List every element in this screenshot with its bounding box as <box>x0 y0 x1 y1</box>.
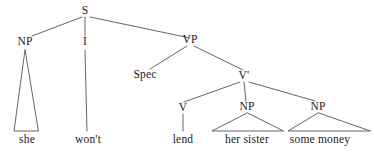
tree-triangle-NP2-her-sister <box>212 113 283 131</box>
node-label-i: I <box>83 36 87 48</box>
tree-branch-S-VP <box>90 17 190 38</box>
tree-edges-layer <box>0 0 374 154</box>
terminal-label-lend: lend <box>173 134 194 146</box>
syntax-tree-figure: SNPIVPSpecV'VNPNP shewon'tlendher sister… <box>0 0 374 154</box>
tree-branch-I-wont <box>85 50 87 131</box>
terminal-label-some-money: some money <box>290 134 350 146</box>
terminal-label-she: she <box>19 134 35 146</box>
tree-branch-VP-Vbar <box>194 46 243 70</box>
tree-branch-Vbar-NP3 <box>249 82 315 101</box>
tree-branch-VP-Spec <box>150 46 187 69</box>
tree-branch-Vbar-V <box>184 82 240 102</box>
tree-branch-S-NP1 <box>32 17 82 36</box>
terminal-label-wont: won't <box>75 134 101 146</box>
node-label-np1: NP <box>17 36 32 48</box>
node-label-np3: NP <box>310 101 325 113</box>
tree-branch-Vbar-NP2 <box>244 82 246 101</box>
tree-triangle-NP1-she <box>14 50 38 131</box>
node-label-np2: NP <box>239 101 254 113</box>
tree-triangle-NP3-some-money <box>288 113 370 131</box>
terminal-label-her-sister: her sister <box>225 134 269 146</box>
node-label-v: V <box>179 102 188 114</box>
node-label-vbar: V' <box>239 70 250 82</box>
node-label-vp: VP <box>182 34 197 46</box>
node-label-spec: Spec <box>133 69 156 81</box>
node-label-s: S <box>82 5 89 17</box>
